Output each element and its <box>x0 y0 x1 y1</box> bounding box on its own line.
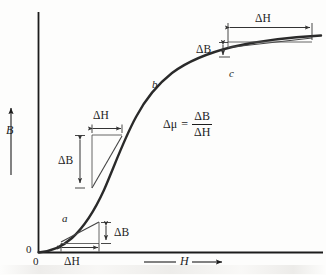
curve-point-c-label: c <box>229 68 234 79</box>
slope-construction-b <box>75 125 122 189</box>
x-axis-label: H <box>180 255 189 267</box>
curve-point-a-label: a <box>62 213 68 224</box>
y-axis-label: B <box>6 124 13 136</box>
equation-denominator: ΔH <box>192 125 212 139</box>
slope-construction-a <box>61 222 111 252</box>
equation-lhs: Δμ <box>163 117 177 132</box>
permeability-equation: Δμ = ΔB ΔH <box>163 110 212 138</box>
delta-h-label-b: ΔH <box>93 110 109 122</box>
equation-fraction: ΔB ΔH <box>192 110 212 138</box>
figure-container: B H 0 0 a b c ΔH ΔB ΔH ΔB ΔH ΔB Δμ = ΔB … <box>0 0 326 275</box>
delta-h-label-a: ΔH <box>64 256 80 268</box>
delta-b-label-c: ΔB <box>196 44 211 56</box>
y-origin-zero-label: 0 <box>26 244 32 255</box>
equation-equals-sign: = <box>180 117 189 132</box>
curve-point-b-label: b <box>152 79 158 90</box>
tangent-line-a <box>61 222 99 242</box>
equation-numerator: ΔB <box>192 110 212 124</box>
x-origin-zero-label: 0 <box>33 256 39 267</box>
delta-h-label-c: ΔH <box>255 13 271 25</box>
magnetization-curve <box>39 36 322 253</box>
delta-b-label-a: ΔB <box>114 227 129 239</box>
delta-b-label-b: ΔB <box>58 155 73 167</box>
